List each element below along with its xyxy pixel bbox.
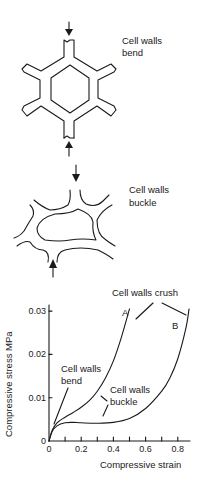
y-tick-label: 0.01 [28, 393, 46, 403]
honeycomb-cell [22, 22, 116, 156]
y-axis-label: Compressive stress MPa [3, 331, 14, 437]
y-tick-label: 0 [41, 436, 46, 446]
annotation-buckle-line2: buckle [110, 396, 137, 407]
crush-leader-b [162, 303, 186, 315]
buckled-cell [14, 165, 115, 277]
panel1-label-line2: bend [122, 47, 143, 58]
annotation-bend-line1: Cell walls [61, 363, 101, 374]
series-label-a: A [122, 307, 129, 318]
annotation-buckle-line1: Cell walls [110, 384, 150, 395]
x-tick-label: 0.4 [107, 444, 120, 454]
load-arrow-up-icon [49, 259, 57, 277]
cell-wall-outline [22, 40, 116, 138]
x-tick-label: 0.8 [172, 444, 185, 454]
panel2-label-line1: Cell walls [129, 184, 169, 195]
crush-leader-a [136, 303, 153, 319]
load-arrow-down-icon [65, 22, 73, 36]
inner-hexagon [51, 65, 89, 113]
annotation-crush: Cell walls crush [112, 287, 178, 298]
load-arrow-up-icon [65, 141, 73, 156]
x-axis-label: Compressive strain [100, 459, 181, 470]
annotation-bend-line2: bend [61, 375, 82, 386]
panel1-label-line1: Cell walls [122, 35, 162, 46]
y-tick-label: 0.03 [28, 306, 46, 316]
x-tick-label: 0 [46, 444, 51, 454]
y-tick-label: 0.02 [28, 349, 46, 359]
panel2-label-line2: buckle [129, 197, 156, 208]
diagram: Cell walls bend Cell walls buckle 00.20.… [0, 0, 207, 484]
x-tick-label: 0.6 [139, 444, 152, 454]
buckle-leader-b [103, 405, 108, 416]
bend-leader [54, 388, 68, 424]
series-label-b: B [172, 320, 178, 331]
stress-strain-chart: 00.20.40.60.8 00.010.020.03 Cell walls c… [3, 287, 190, 470]
load-arrow-down-icon [72, 165, 80, 182]
buckle-leader-a [101, 396, 107, 401]
x-tick-label: 0.2 [75, 444, 88, 454]
